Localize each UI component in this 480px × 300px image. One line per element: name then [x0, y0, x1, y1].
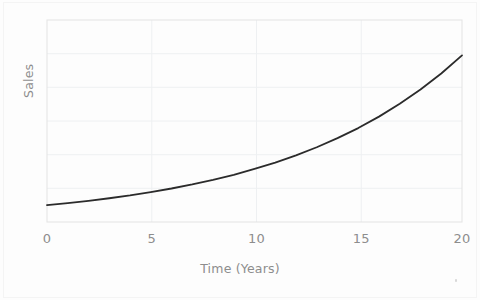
x-tick-label-15: 15	[353, 231, 370, 246]
plot-canvas	[0, 0, 480, 300]
scan-artifact-speck	[455, 279, 457, 282]
x-tick-label-5: 5	[148, 231, 156, 246]
y-axis-title: Sales	[21, 64, 36, 98]
sales-curve	[47, 55, 462, 205]
x-tick-label-0: 0	[43, 231, 51, 246]
x-axis-title: Time (Years)	[0, 261, 480, 276]
x-tick-label-10: 10	[248, 231, 265, 246]
x-tick-label-20: 20	[454, 231, 471, 246]
chart-figure: 0 5 10 15 20 Time (Years) Sales	[0, 0, 480, 300]
